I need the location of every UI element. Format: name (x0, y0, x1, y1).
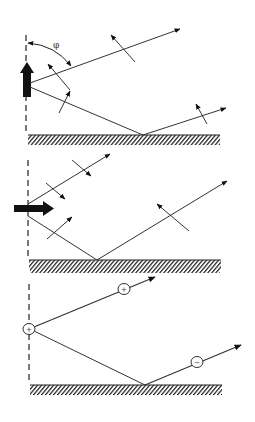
polarization-arrow (196, 104, 207, 124)
direct-ray (30, 29, 180, 83)
polarization-arrow (157, 204, 189, 231)
ground-hatch (29, 260, 221, 270)
panel-charge-representation: + + − (23, 270, 241, 395)
svg-text:−: − (194, 359, 200, 367)
reflected-charge-minus-icon: − (191, 357, 203, 368)
polarization-arrow-bent (59, 91, 70, 113)
vertical-source-arrow-icon (20, 62, 34, 97)
phi-label: φ (53, 40, 59, 50)
incident-ray (34, 331, 145, 385)
polarization-arrow (72, 160, 91, 176)
panel-horizontal-polarization (14, 140, 227, 270)
direct-charge-plus-icon: + (118, 284, 130, 295)
phi-angle-arc (28, 43, 71, 66)
direct-ray (34, 277, 155, 327)
incident-ray (28, 216, 97, 260)
polarization-arrow (48, 64, 70, 90)
ceiling-hatch (28, 140, 220, 145)
source-charge-plus-icon: + (23, 324, 35, 335)
panel-vertical-polarization: φ (20, 29, 226, 145)
direct-ray (28, 154, 110, 204)
svg-text:+: + (26, 326, 32, 334)
incident-ray (30, 87, 143, 135)
svg-text:+: + (121, 286, 127, 294)
reflected-ray (143, 108, 226, 135)
ground-hatch (30, 385, 222, 395)
reflected-ray (97, 181, 227, 260)
reflection-diagram: φ (0, 0, 255, 422)
horizontal-source-arrow-icon (14, 201, 54, 216)
ceiling-hatch (30, 270, 220, 273)
polarization-arrow (111, 35, 135, 62)
